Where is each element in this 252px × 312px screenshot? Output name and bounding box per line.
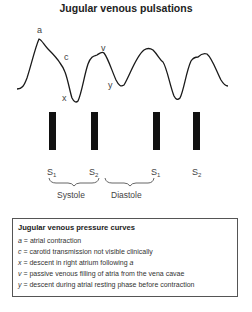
diastole-label: Diastole [111, 190, 142, 200]
legend-item-c: c = carotid transmission not visible cli… [18, 246, 237, 257]
wave-label-c: c [64, 52, 69, 62]
heart-sound-label-s2: S2 [89, 167, 99, 178]
legend-title: Jugular venous pressure curves [18, 223, 237, 232]
legend-item-a: a = atrial contraction [18, 235, 237, 246]
wave-label-a: a [37, 25, 42, 35]
wave-label-v: v [101, 43, 106, 53]
legend-box: Jugular venous pressure curves a = atria… [12, 218, 238, 297]
diastole-brace [105, 178, 154, 186]
systole-label: Systole [57, 190, 85, 200]
legend-item-v: v = passive venous filling of atria from… [18, 268, 237, 279]
wave-label-x: x [62, 93, 67, 103]
heart-sound-label-s1-second: S1 [151, 167, 161, 178]
jvp-waveform-diagram: a c x v y S1 S2 S1 S2 Systole Diastole [0, 0, 252, 215]
systole-brace [49, 178, 99, 186]
heart-sound-bar-s1 [49, 112, 56, 150]
heart-sound-bar-s2-second [193, 112, 200, 150]
legend-item-x: x = descent in right atrium following a [18, 257, 237, 268]
heart-sound-bar-s2 [91, 112, 98, 150]
heart-sound-bar-s1-second [153, 112, 160, 150]
jvp-waveform-curve [17, 39, 228, 102]
wave-label-y: y [108, 80, 113, 90]
heart-sound-label-s1: S1 [47, 167, 57, 178]
heart-sound-label-s2-second: S2 [192, 167, 202, 178]
legend-item-y: y = descent during atrial resting phase … [18, 279, 237, 290]
